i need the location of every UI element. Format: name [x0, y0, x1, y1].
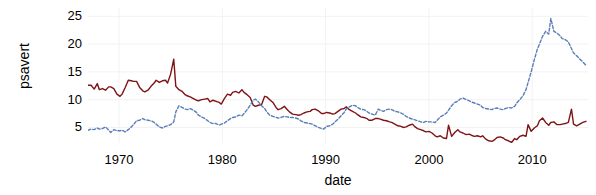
y-tick-label: 25 — [48, 9, 82, 22]
y-tick-label: 15 — [48, 65, 82, 78]
x-axis-title: date — [88, 172, 588, 188]
y-axis-title: psavert — [16, 26, 32, 106]
x-tick-label: 1990 — [311, 152, 340, 167]
plot-area — [88, 8, 588, 143]
y-tick-label: 5 — [48, 120, 82, 133]
series-line-uempmed — [88, 19, 586, 133]
x-tick-label: 2000 — [414, 152, 443, 167]
x-axis-tick-labels: 19701980199020002010 — [0, 152, 596, 168]
x-tick-label: 2010 — [518, 152, 547, 167]
gridlines — [88, 8, 588, 143]
x-tick-label: 1970 — [105, 152, 134, 167]
y-tick-label: 10 — [48, 93, 82, 106]
y-tick-label: 20 — [48, 37, 82, 50]
chart-container: psavert 510152025 19701980199020002010 d… — [0, 0, 596, 195]
x-tick-label: 1980 — [208, 152, 237, 167]
series-lines — [88, 19, 586, 143]
chart-svg — [88, 8, 588, 143]
